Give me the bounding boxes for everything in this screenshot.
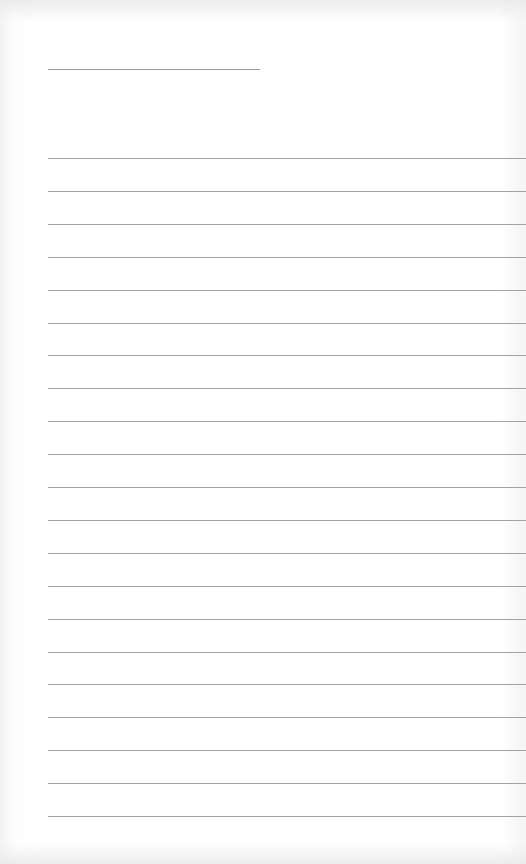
- writing-line[interactable]: [48, 224, 526, 225]
- writing-line[interactable]: [48, 717, 526, 718]
- writing-line[interactable]: [48, 586, 526, 587]
- writing-line[interactable]: [48, 520, 526, 521]
- writing-line[interactable]: [48, 355, 526, 356]
- writing-line[interactable]: [48, 158, 526, 159]
- writing-line[interactable]: [48, 783, 526, 784]
- writing-line[interactable]: [48, 290, 526, 291]
- writing-line[interactable]: [48, 257, 526, 258]
- writing-line[interactable]: [48, 750, 526, 751]
- writing-line[interactable]: [48, 388, 526, 389]
- writing-line[interactable]: [48, 816, 526, 817]
- title-line[interactable]: [48, 69, 260, 70]
- writing-line[interactable]: [48, 684, 526, 685]
- writing-line[interactable]: [48, 191, 526, 192]
- paper-top-edge: [0, 0, 526, 22]
- writing-line[interactable]: [48, 421, 526, 422]
- writing-line[interactable]: [48, 553, 526, 554]
- paper-bottom-edge: [0, 844, 526, 864]
- writing-line[interactable]: [48, 323, 526, 324]
- writing-line[interactable]: [48, 487, 526, 488]
- writing-line[interactable]: [48, 454, 526, 455]
- writing-line[interactable]: [48, 619, 526, 620]
- lined-paper-sheet: [0, 0, 526, 864]
- writing-line[interactable]: [48, 652, 526, 653]
